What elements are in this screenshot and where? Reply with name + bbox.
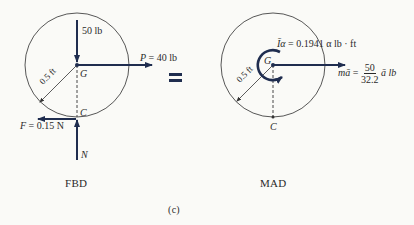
ma-symbol: mā [338,67,350,78]
p-force-label: P = 40 lb [140,53,177,63]
mad-contact-point [272,116,275,119]
mad-contact-label: C [270,122,277,132]
fbd-contact-label: C [80,108,87,118]
fraction-numerator: 50 [364,62,376,74]
mad-center-label: G [264,56,271,66]
mad-diagram [221,13,345,119]
mass-fraction: 50 32.2 [361,62,379,85]
moment-value: = 0.1941 α lb · ft [288,38,356,49]
moment-label: Īα = 0.1941 α lb · ft [277,39,356,49]
ma-tail: ā lb [381,67,396,78]
p-value: = 40 lb [149,52,177,63]
p-symbol: P [140,52,146,63]
moment-symbol: Īα [277,38,286,49]
weight-label: 50 lb [82,26,102,36]
fraction-denominator: 32.2 [361,74,379,85]
fbd-caption: FBD [65,177,87,189]
mad-caption: MAD [260,177,287,189]
figure-label: (c) [168,204,180,215]
mad-center-point [271,63,275,67]
ma-equals: = [353,67,359,78]
friction-value: = 0.15 N [29,120,64,131]
friction-label: F = 0.15 N [20,121,64,131]
normal-force-label: N [81,150,88,160]
fbd-center-point [75,63,79,67]
diagram-canvas [0,0,414,225]
fbd-center-label: G [80,69,87,79]
equals-graphic [169,73,182,82]
friction-symbol: F [20,120,26,131]
ma-force-label: mā = 50 32.2 ā lb [338,62,396,85]
